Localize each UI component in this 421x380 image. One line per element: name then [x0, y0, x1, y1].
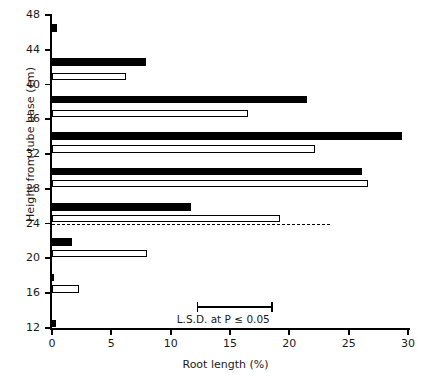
y-axis-tick-label: 48 — [10, 8, 40, 21]
x-axis-tick — [110, 330, 112, 335]
y-axis-tick — [45, 118, 50, 120]
bar-filled — [52, 58, 146, 65]
x-axis-tick-label: 0 — [40, 337, 64, 350]
y-axis-tick-label: 36 — [10, 112, 40, 125]
bar-filled — [52, 320, 56, 327]
lsd-error-bar — [197, 306, 273, 308]
y-axis-tick-label: 32 — [10, 147, 40, 160]
bar-open — [52, 215, 280, 222]
y-axis-tick-label: 16 — [10, 286, 40, 299]
lsd-label: L.S.D. at P ≤ 0.05 — [177, 313, 270, 325]
x-axis-tick-label: 20 — [277, 337, 301, 350]
x-axis-tick-label: 25 — [337, 337, 361, 350]
bar-filled — [52, 96, 307, 103]
bar-filled — [52, 132, 402, 139]
lsd-cap-left — [197, 302, 199, 312]
x-axis-tick-label: 10 — [159, 337, 183, 350]
y-axis-tick-label: 28 — [10, 182, 40, 195]
y-axis-tick — [45, 153, 50, 155]
bar-filled — [52, 238, 72, 245]
y-axis-tick-label: 24 — [10, 217, 40, 230]
y-axis-tick-label: 44 — [10, 43, 40, 56]
dashed-threshold-line — [52, 224, 330, 225]
y-axis-line — [50, 14, 52, 330]
y-axis-label: Height from tube base (cm) — [24, 45, 37, 245]
y-axis-tick — [45, 14, 50, 16]
x-axis-tick-label: 5 — [99, 337, 123, 350]
x-axis-label-text: Root length (%) — [152, 358, 268, 371]
y-axis-tick — [45, 223, 50, 225]
bar-open — [52, 73, 126, 80]
y-axis-tick-label: 12 — [10, 321, 40, 334]
x-axis-tick — [348, 330, 350, 335]
x-axis-label: Root length (%) — [0, 358, 421, 371]
y-axis-tick — [45, 188, 50, 190]
x-axis-tick — [170, 330, 172, 335]
x-axis-tick — [288, 330, 290, 335]
bar-filled — [52, 274, 54, 281]
bar-open — [52, 250, 147, 257]
bar-open — [52, 110, 248, 117]
y-axis-tick — [45, 84, 50, 86]
lsd-cap-right — [271, 302, 273, 312]
y-axis-tick — [45, 327, 50, 329]
x-axis-tick — [229, 330, 231, 335]
y-axis-tick — [45, 292, 50, 294]
x-axis-tick-label: 15 — [218, 337, 242, 350]
bar-open — [52, 145, 315, 152]
x-axis-tick-label: 30 — [396, 337, 420, 350]
y-axis-tick-label: 20 — [10, 251, 40, 264]
x-axis-tick — [407, 330, 409, 335]
bar-filled — [52, 203, 191, 210]
x-axis-tick — [51, 330, 53, 335]
bar-open — [52, 180, 368, 187]
bar-filled — [52, 24, 57, 31]
y-axis-tick-label: 40 — [10, 78, 40, 91]
y-axis-tick — [45, 49, 50, 51]
chart-figure: Height from tube base (cm) Root length (… — [0, 0, 421, 380]
bar-open — [52, 285, 79, 292]
y-axis-tick — [45, 257, 50, 259]
bar-filled — [52, 168, 362, 175]
